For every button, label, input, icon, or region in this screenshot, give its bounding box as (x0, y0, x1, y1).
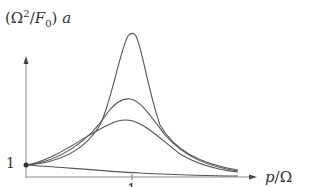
x-axis-label: p/Ω (265, 168, 292, 186)
curve-higher-damping (26, 120, 238, 172)
curve-low-damping (26, 33, 238, 170)
start-point (24, 163, 29, 168)
x-tick-label: 1 (127, 182, 136, 187)
y-tick-label: 1 (6, 155, 15, 171)
curve-moderate-damping (26, 99, 238, 171)
y-axis-arrow-icon (24, 56, 29, 64)
y-axis-label: (Ω2/F0) a (5, 8, 71, 29)
x-axis-arrow-icon (249, 175, 257, 180)
